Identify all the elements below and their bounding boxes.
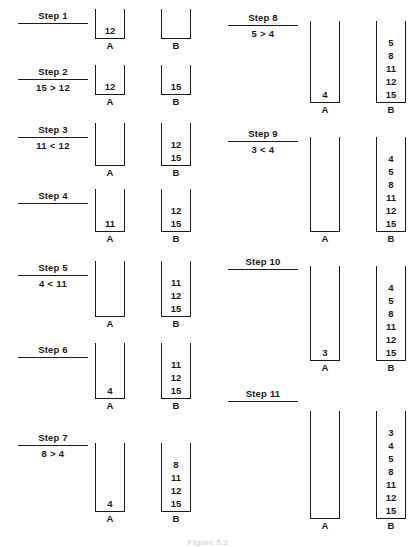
step-7-stack-a-label: A — [95, 513, 125, 525]
step-10-stack-b-label: B — [376, 362, 406, 374]
step-7-title: Step 7 — [18, 432, 88, 443]
stack-item: 12 — [386, 333, 397, 346]
step-1-rule — [18, 23, 88, 24]
step-5-stack-b: 111215B — [161, 261, 191, 330]
step-4-rule — [18, 203, 88, 204]
stack-item: 15 — [386, 217, 397, 230]
step-9-stack-a: A — [310, 137, 340, 245]
step-5-rule — [18, 275, 88, 276]
step-7: Step 78 > 44A8111215B — [0, 0, 416, 547]
step-4: Step 411A1215B — [0, 0, 416, 547]
stack-item: 12 — [171, 204, 182, 217]
step-1-stack-a: 12A — [95, 9, 125, 52]
step-3-stack-a: A — [95, 123, 125, 179]
step-7-stack-b: 8111215B — [161, 443, 191, 525]
step-5-stack-a-container — [95, 261, 125, 317]
stack-item: 15 — [171, 80, 182, 93]
step-3-title: Step 3 — [18, 124, 88, 135]
stack-item: 12 — [171, 371, 182, 384]
step-4-title: Step 4 — [18, 190, 88, 201]
stack-item: 4 — [388, 281, 393, 294]
stack-item: 11 — [386, 320, 396, 333]
step-6-stack-a-container: 4 — [95, 343, 125, 399]
stack-item: 12 — [171, 484, 182, 497]
stack-item: 5 — [388, 452, 393, 465]
step-9-rule — [228, 141, 298, 142]
step-7-stack-b-label: B — [161, 513, 191, 525]
step-5-title: Step 5 — [18, 262, 88, 273]
stack-item: 4 — [322, 88, 327, 101]
step-3-stack-b: 1215B — [161, 123, 191, 179]
step-1-stack-b-container — [161, 9, 191, 39]
step-6-rule — [18, 357, 88, 358]
step-5-stack-b-label: B — [161, 318, 191, 330]
step-8-stack-b-container: 58111215 — [376, 21, 406, 103]
step-11-stack-b: 3458111215B — [376, 411, 406, 532]
step-6-heading: Step 6 — [18, 344, 88, 360]
stack-item: 5 — [388, 294, 393, 307]
step-10-stack-b-container: 458111215 — [376, 266, 406, 361]
stack-item: 4 — [107, 384, 112, 397]
step-4-heading: Step 4 — [18, 190, 88, 206]
step-10-stack-b: 458111215B — [376, 266, 406, 374]
step-6-stack-b: 111215B — [161, 343, 191, 412]
step-7-rule — [18, 445, 88, 446]
stack-item: 12 — [386, 204, 397, 217]
stack-item: 8 — [388, 465, 393, 478]
step-11-stack-b-label: B — [376, 520, 406, 532]
step-7-stack-b-container: 8111215 — [161, 443, 191, 512]
stack-item: 4 — [388, 439, 393, 452]
stack-item: 8 — [388, 178, 393, 191]
stack-item: 5 — [388, 36, 393, 49]
step-3-stack-b-container: 1215 — [161, 123, 191, 166]
step-10-heading: Step 10 — [228, 256, 298, 272]
step-5-heading: Step 54 < 11 — [18, 262, 88, 289]
step-11-stack-b-container: 3458111215 — [376, 411, 406, 519]
step-5: Step 54 < 11A111215B — [0, 0, 416, 547]
figure-caption: Figure 5.2 — [0, 538, 416, 547]
step-4-stack-b-container: 1215 — [161, 189, 191, 232]
stack-item: 4 — [388, 152, 393, 165]
sorting-steps-figure: Step 112ABStep 215 > 1212A15BStep 311 < … — [0, 0, 416, 547]
step-3-heading: Step 311 < 12 — [18, 124, 88, 151]
stack-item: 12 — [171, 138, 182, 151]
step-9-title: Step 9 — [228, 128, 298, 139]
step-7-stack-a-container: 4 — [95, 443, 125, 512]
step-10-stack-a: 3A — [310, 266, 340, 374]
step-10-rule — [228, 269, 298, 270]
step-9-stack-b-container: 458111215 — [376, 137, 406, 232]
step-1: Step 112AB — [0, 0, 416, 547]
step-7-heading: Step 78 > 4 — [18, 432, 88, 459]
step-11-rule — [228, 401, 298, 402]
step-6-stack-b-label: B — [161, 400, 191, 412]
step-2-heading: Step 215 > 12 — [18, 66, 88, 93]
stack-item: 11 — [171, 276, 181, 289]
step-1-title: Step 1 — [18, 10, 88, 21]
stack-item: 8 — [173, 458, 178, 471]
stack-item: 11 — [105, 217, 115, 230]
stack-item: 15 — [386, 504, 397, 517]
stack-item: 8 — [388, 49, 393, 62]
step-1-stack-a-container: 12 — [95, 9, 125, 39]
step-4-stack-b-label: B — [161, 233, 191, 245]
step-3-stack-a-container — [95, 123, 125, 166]
step-9-stack-a-label: A — [310, 233, 340, 245]
step-2-stack-a-container: 12 — [95, 65, 125, 95]
step-5-stack-b-container: 111215 — [161, 261, 191, 317]
step-2-stack-a: 12A — [95, 65, 125, 108]
step-9-heading: Step 93 < 4 — [228, 128, 298, 155]
step-9-stack-a-container — [310, 137, 340, 232]
step-9-stack-b: 458111215B — [376, 137, 406, 245]
step-2-stack-b-label: B — [161, 96, 191, 108]
step-6-stack-a: 4A — [95, 343, 125, 412]
step-1-heading: Step 1 — [18, 10, 88, 26]
stack-item: 15 — [386, 88, 397, 101]
stack-item: 15 — [171, 384, 182, 397]
step-5-stack-a: A — [95, 261, 125, 330]
step-7-stack-a: 4A — [95, 443, 125, 525]
step-8-stack-a: 4A — [310, 21, 340, 116]
step-8-rule — [228, 25, 298, 26]
step-11-stack-a-label: A — [310, 520, 340, 532]
stack-item: 11 — [171, 471, 181, 484]
step-8-stack-b: 58111215B — [376, 21, 406, 116]
